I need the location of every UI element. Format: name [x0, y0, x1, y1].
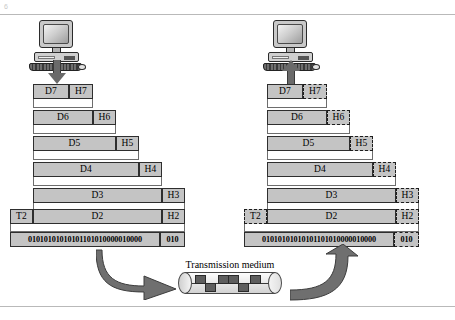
sender-data-4: D4	[33, 162, 139, 177]
receiver-layer-3-row: D3 H3	[267, 188, 419, 203]
sender-layer-2-row: T2 D2 H2	[10, 209, 185, 224]
receiver-header-4: H4	[373, 162, 396, 177]
receiver-data-6: D6	[267, 110, 327, 125]
medium-cap-right	[268, 272, 282, 294]
receiver-layer-7-row: D7 H7	[267, 84, 327, 99]
receiver-data-7: D7	[267, 84, 303, 99]
sender-header-5: H5	[116, 136, 139, 151]
receiver-data-3: D3	[267, 188, 396, 203]
sender-guide-5	[33, 151, 139, 160]
receiver-header-7: H7	[303, 84, 327, 99]
receiver-layer-2-row: T2 D2 H2	[244, 209, 419, 224]
receiver-bitstream-tail: 010	[394, 232, 419, 247]
receiver-data-4: D4	[267, 162, 373, 177]
receiver-header-3: H3	[396, 188, 419, 203]
sender-header-6: H6	[93, 110, 116, 125]
signal-pulse	[238, 283, 249, 292]
receiver-guide-6	[267, 125, 350, 134]
sender-data-5: D5	[33, 136, 116, 151]
mouse-icon	[78, 64, 86, 70]
signal-pulse	[250, 275, 261, 284]
sender-data-2: D2	[33, 209, 162, 224]
sender-header-7: H7	[69, 84, 93, 99]
receiver-header-5: H5	[350, 136, 373, 151]
signal-pulse	[205, 283, 216, 292]
drive-slot	[38, 56, 55, 59]
sender-trailer-2: T2	[10, 209, 33, 224]
receiver-data-5: D5	[267, 136, 350, 151]
sender-bitstream: 01010101010101101010000010000	[10, 232, 160, 247]
sender-layer-7-row: D7 H7	[33, 84, 93, 99]
sender-header-2: H2	[162, 209, 185, 224]
sender-guide-7	[33, 99, 93, 108]
sender-data-7: D7	[33, 84, 69, 99]
sender-physical-row: 01010101010101101010000010000 010	[10, 232, 185, 247]
flow-arrow-to-medium-icon	[96, 248, 182, 300]
receiver-guide-4	[267, 177, 396, 186]
sender-data-6: D6	[33, 110, 93, 125]
receiver-layer-6-row: D6 H6	[267, 110, 350, 125]
sender-layer-3-row: D3 H3	[33, 188, 185, 203]
sender-header-4: H4	[139, 162, 162, 177]
transmission-medium-icon	[178, 272, 282, 294]
drive-slot	[272, 56, 289, 59]
sender-layer-6-row: D6 H6	[33, 110, 116, 125]
sender-header-3: H3	[162, 188, 185, 203]
sender-guide-2	[10, 224, 185, 232]
mouse-icon	[312, 64, 320, 70]
sender-layer-4-row: D4 H4	[33, 162, 162, 177]
sender-data-3: D3	[33, 188, 162, 203]
receiver-header-6: H6	[327, 110, 350, 125]
receiver-layer-4-row: D4 H4	[267, 162, 396, 177]
case-badge	[298, 56, 309, 60]
encapsulation-arrow-down-icon	[48, 60, 66, 84]
flow-arrow-from-medium-icon	[290, 244, 366, 302]
monitor-screen	[43, 24, 69, 44]
monitor-screen	[277, 24, 303, 44]
receiver-header-2: H2	[396, 209, 419, 224]
receiver-guide-7	[267, 99, 327, 108]
case-badge	[64, 56, 75, 60]
sender-bitstream-tail: 010	[160, 232, 185, 247]
receiver-guide-2	[244, 224, 419, 232]
monitor-icon	[39, 20, 73, 48]
monitor-icon	[273, 20, 307, 48]
decapsulation-arrow-up-icon	[282, 60, 300, 84]
receiver-data-2: D2	[267, 209, 396, 224]
sender-guide-6	[33, 125, 116, 134]
sender-guide-4	[33, 177, 162, 186]
sender-layer-5-row: D5 H5	[33, 136, 139, 151]
transmission-medium-label: Transmission medium	[170, 259, 290, 270]
receiver-trailer-2: T2	[244, 209, 267, 224]
receiver-layer-5-row: D5 H5	[267, 136, 373, 151]
receiver-guide-5	[267, 151, 373, 160]
